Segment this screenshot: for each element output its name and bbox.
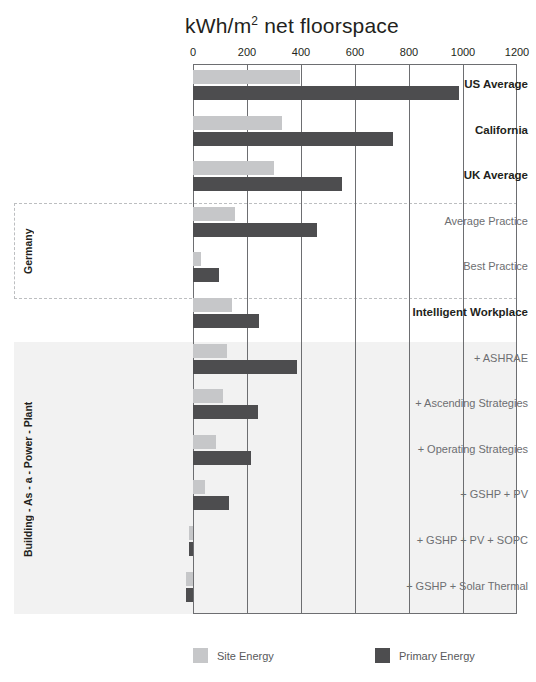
x-tick-label-200: 200 — [238, 46, 256, 58]
site-energy-bar — [193, 435, 216, 449]
legend-label: Primary Energy — [399, 650, 475, 662]
site-energy-bar — [193, 207, 235, 221]
category-label: + ASHRAE — [361, 352, 536, 364]
bar-row: Intelligent Workplace — [0, 298, 536, 328]
bar-row: + GSHP + PV — [0, 480, 536, 510]
category-label: Intelligent Workplace — [361, 306, 536, 318]
x-tick-label-600: 600 — [346, 46, 364, 58]
chart-title-main: kWh/m — [185, 14, 251, 37]
site-energy-bar — [193, 161, 274, 175]
category-label: + GSHP + PV + SOPC — [361, 534, 536, 546]
bar-row: Best Practice — [0, 252, 536, 282]
site-energy-bar — [193, 70, 300, 84]
legend-swatch-site-icon — [193, 648, 208, 663]
bar-row: + ASHRAE — [0, 344, 536, 374]
chart-root: kWh/m2 net floorspace 020040060080010001… — [0, 0, 536, 682]
primary-energy-bar — [186, 588, 193, 602]
bar-row: Average Practice — [0, 207, 536, 237]
category-label: UK Average — [361, 169, 536, 181]
bar-row: + Ascending Strategies — [0, 389, 536, 419]
primary-energy-bar — [193, 314, 259, 328]
site-energy-bar — [193, 252, 201, 266]
site-energy-bar — [193, 298, 232, 312]
site-energy-bar — [193, 480, 205, 494]
category-label: + GSHP + Solar Thermal — [361, 580, 536, 592]
bar-row: California — [0, 116, 536, 146]
chart-title-tail: net floorspace — [258, 14, 399, 37]
category-label: Average Practice — [361, 215, 536, 227]
primary-energy-bar — [193, 360, 297, 374]
primary-energy-bar — [193, 405, 258, 419]
primary-energy-bar — [193, 268, 219, 282]
category-label: Best Practice — [361, 260, 536, 272]
primary-energy-bar — [193, 496, 229, 510]
category-label: + GSHP + PV — [361, 488, 536, 500]
bar-row: US Average — [0, 70, 536, 100]
primary-energy-bar — [193, 177, 342, 191]
primary-energy-bar — [189, 542, 193, 556]
group-label-building-as-power-plant: Building - As - a - Power - Plant — [22, 352, 34, 606]
category-label: + Ascending Strategies — [361, 397, 536, 409]
x-tick-label-1200: 1200 — [505, 46, 529, 58]
chart-legend: Site EnergyPrimary Energy — [193, 648, 517, 674]
group-label-germany: Germany — [22, 208, 34, 294]
site-energy-bar — [193, 116, 282, 130]
site-energy-bar — [189, 526, 193, 540]
x-tick-label-1000: 1000 — [451, 46, 475, 58]
legend-item-site[interactable]: Site Energy — [193, 648, 274, 663]
site-energy-bar — [186, 572, 193, 586]
primary-energy-bar — [193, 86, 459, 100]
chart-title: kWh/m2 net floorspace — [185, 14, 399, 38]
primary-energy-bar — [193, 223, 317, 237]
legend-swatch-primary-icon — [375, 648, 390, 663]
x-tick-label-0: 0 — [190, 46, 196, 58]
category-label: + Operating Strategies — [361, 443, 536, 455]
primary-energy-bar — [193, 132, 393, 146]
site-energy-bar — [193, 344, 227, 358]
bar-row: + GSHP + PV + SOPC — [0, 526, 536, 556]
bar-row: + Operating Strategies — [0, 435, 536, 465]
x-tick-label-800: 800 — [400, 46, 418, 58]
x-tick-label-400: 400 — [292, 46, 310, 58]
legend-item-primary[interactable]: Primary Energy — [375, 648, 475, 663]
primary-energy-bar — [193, 451, 251, 465]
bar-row: UK Average — [0, 161, 536, 191]
legend-label: Site Energy — [217, 650, 274, 662]
site-energy-bar — [193, 389, 223, 403]
bar-row: + GSHP + Solar Thermal — [0, 572, 536, 602]
